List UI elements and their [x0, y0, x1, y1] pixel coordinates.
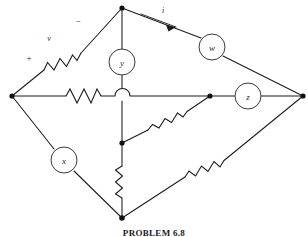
element-z-label: z	[245, 92, 250, 102]
polarity-plus-label: +	[26, 53, 31, 63]
branch-inner-diagonal	[122, 96, 210, 143]
resistor-upper-left	[44, 53, 81, 70]
resistor-diagonal	[148, 112, 187, 131]
polarity-minus-label: −	[75, 16, 80, 26]
node-right	[300, 93, 305, 98]
wire-bottom-to-resistor	[122, 177, 185, 218]
element-w-label: w	[209, 43, 215, 53]
node-mid-low	[119, 140, 124, 145]
current-arrow-shaft	[141, 14, 176, 27]
node-top	[119, 5, 124, 10]
element-w[interactable]: w	[199, 34, 225, 60]
resistor-vertical	[116, 166, 123, 198]
circuit-diagram: w y z x v + − i	[0, 0, 308, 237]
wire-hop-icon	[115, 89, 130, 96]
node-mid-right	[207, 93, 212, 98]
wire-resistor-to-right	[224, 96, 303, 161]
circuit-figure: w y z x v + − i PROBLEM 6.8	[0, 0, 308, 237]
branch-lower-right	[122, 96, 303, 218]
wire-resistor-d-to-midright	[187, 96, 210, 112]
node-bottom	[119, 215, 125, 221]
figure-caption: PROBLEM 6.8	[0, 228, 308, 237]
branch-upper-left	[12, 8, 122, 96]
resistor-lower-right	[185, 161, 224, 178]
wire-left-to-x	[12, 96, 54, 149]
branch-center-vertical	[116, 8, 123, 218]
element-y-label: y	[119, 58, 124, 68]
element-z[interactable]: z	[235, 83, 261, 109]
current-arrow-i	[141, 14, 176, 32]
current-label-i: i	[162, 6, 164, 15]
element-y[interactable]: y	[109, 49, 135, 75]
wire-w-to-right	[223, 56, 303, 96]
wire-resistor-v-to-top	[81, 8, 122, 53]
node-left	[9, 93, 14, 98]
voltage-label-v: v	[47, 34, 51, 43]
wire-x-to-bottom	[74, 171, 122, 218]
wire-midlow-to-resistor-d	[122, 130, 148, 143]
element-x-label: x	[61, 156, 66, 166]
element-x[interactable]: x	[51, 147, 77, 173]
wire-left-to-resistor-v	[12, 70, 44, 96]
resistor-horizontal	[66, 89, 101, 103]
